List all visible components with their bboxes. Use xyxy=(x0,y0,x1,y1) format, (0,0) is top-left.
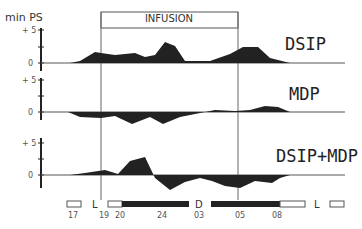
light-segment xyxy=(108,201,122,207)
dsip-mdp-area xyxy=(41,157,290,190)
panel-dsip: + 5 0 DSIP xyxy=(22,26,345,71)
light-label: L xyxy=(92,199,98,210)
light-label: L xyxy=(314,199,320,210)
light-dark-bar: L D L xyxy=(67,199,344,210)
xtick-19: 19 xyxy=(99,211,109,220)
ytick-zero: 0 xyxy=(28,108,33,117)
light-segment xyxy=(67,201,81,207)
panel-label-dsip: DSIP xyxy=(285,34,326,54)
xtick-17: 17 xyxy=(68,211,78,220)
light-segment xyxy=(280,201,305,207)
chart: min PS INFUSION + 5 0 DSIP + 5 0 MDP + 5… xyxy=(0,0,362,229)
light-segment xyxy=(330,201,344,207)
xtick-24: 24 xyxy=(157,211,167,220)
ytick-plus5: + 5 xyxy=(22,26,36,35)
xtick-03: 03 xyxy=(194,211,204,220)
ytick-zero: 0 xyxy=(28,59,33,68)
dark-segment xyxy=(211,201,280,207)
dsip-area xyxy=(41,42,290,63)
mdp-area xyxy=(41,106,290,124)
infusion-label: INFUSION xyxy=(145,13,193,24)
panel-label-dsip-mdp: DSIP+MDP xyxy=(276,146,358,166)
xtick-20: 20 xyxy=(115,211,125,220)
panel-dsip-mdp: + 5 0 DSIP+MDP xyxy=(22,138,358,190)
xtick-05: 05 xyxy=(235,211,245,220)
panel-mdp: + 5 0 MDP xyxy=(22,76,345,124)
y-axis-label: min PS xyxy=(5,11,43,24)
ytick-plus5: + 5 xyxy=(22,139,36,148)
dark-segment xyxy=(122,201,189,207)
ytick-plus5: + 5 xyxy=(22,76,36,85)
xtick-08: 08 xyxy=(272,211,282,220)
dark-label: D xyxy=(195,199,203,210)
panel-label-mdp: MDP xyxy=(289,84,320,104)
ytick-zero: 0 xyxy=(28,171,33,180)
